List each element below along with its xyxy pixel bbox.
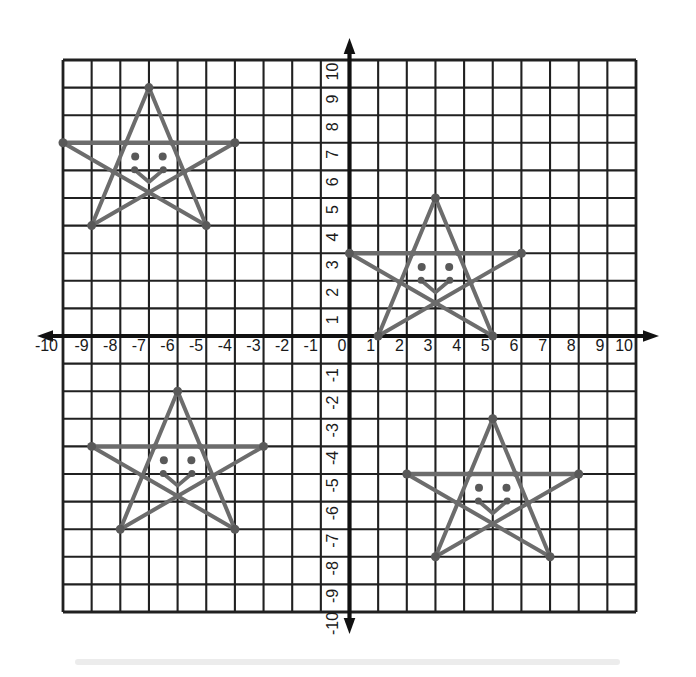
star-vertex-dot bbox=[259, 442, 268, 451]
x-tick-label: 1 bbox=[366, 337, 375, 354]
x-tick-label: 9 bbox=[595, 337, 604, 354]
star-vertex-dot bbox=[431, 194, 440, 203]
star-inner-intersection-dot bbox=[139, 473, 145, 479]
star-vertex-dot bbox=[345, 249, 354, 258]
y-tick-label: -10 bbox=[324, 612, 341, 635]
x-tick-label: -6 bbox=[160, 337, 174, 354]
mouth-corner-dot bbox=[504, 498, 511, 505]
x-tick-label: 4 bbox=[452, 337, 461, 354]
eye-dot bbox=[131, 153, 139, 161]
mouth-corner-dot bbox=[160, 470, 167, 477]
star-inner-intersection-dot bbox=[181, 169, 187, 175]
star-inner-intersection-dot bbox=[410, 250, 416, 256]
y-tick-label: -2 bbox=[324, 395, 341, 409]
y-tick-label: -6 bbox=[324, 506, 341, 520]
star-vertex-dot bbox=[230, 525, 239, 534]
star-inner-intersection-dot bbox=[467, 471, 473, 477]
star-inner-intersection-dot bbox=[490, 521, 496, 527]
star-vertex-dot bbox=[202, 221, 211, 230]
star-vertex-dot bbox=[374, 332, 383, 341]
star-vertex-dot bbox=[402, 470, 411, 479]
star-vertex-dot bbox=[488, 332, 497, 341]
worksheet-page: -10-9-8-7-6-5-4-3-2-10123456789101098765… bbox=[0, 0, 696, 677]
y-tick-label: -3 bbox=[324, 423, 341, 437]
coordinate-grid-figure: -10-9-8-7-6-5-4-3-2-10123456789101098765… bbox=[0, 0, 696, 677]
y-tick-label: 1 bbox=[324, 315, 341, 324]
star-inner-intersection-dot bbox=[123, 140, 129, 146]
star-inner-intersection-dot bbox=[525, 500, 531, 506]
y-tick-label: 10 bbox=[324, 63, 341, 81]
star-vertex-dot bbox=[517, 249, 526, 258]
y-tick-label: -9 bbox=[324, 589, 341, 603]
x-tick-label: 7 bbox=[538, 337, 547, 354]
star-inner-intersection-dot bbox=[397, 279, 403, 285]
star-inner-intersection-dot bbox=[169, 140, 175, 146]
star-inner-intersection-dot bbox=[146, 189, 152, 195]
y-tick-label: -8 bbox=[324, 561, 341, 575]
x-tick-label: 0 bbox=[338, 337, 347, 354]
mouth-corner-dot bbox=[188, 470, 195, 477]
eye-dot bbox=[160, 456, 168, 464]
star-vertex-dot bbox=[173, 387, 182, 396]
star-inner-intersection-dot bbox=[513, 471, 519, 477]
x-tick-label: 5 bbox=[481, 337, 490, 354]
star-vertex-dot bbox=[116, 525, 125, 534]
x-tick-label: -1 bbox=[304, 337, 318, 354]
eye-dot bbox=[475, 484, 483, 492]
x-tick-label: 2 bbox=[395, 337, 404, 354]
star-vertex-dot bbox=[431, 552, 440, 561]
eye-dot bbox=[187, 456, 195, 464]
x-tick-label: 10 bbox=[615, 337, 633, 354]
star-vertex-dot bbox=[87, 221, 96, 230]
star-inner-intersection-dot bbox=[432, 300, 438, 306]
mouth-corner-dot bbox=[131, 166, 138, 173]
star-inner-intersection-dot bbox=[152, 443, 158, 449]
mouth-corner-dot bbox=[446, 277, 453, 284]
star-vertex-dot bbox=[144, 83, 153, 92]
eye-dot bbox=[503, 484, 511, 492]
x-tick-label: 3 bbox=[424, 337, 433, 354]
y-tick-label: -5 bbox=[324, 478, 341, 492]
eye-dot bbox=[445, 263, 453, 271]
y-axis-top-arrowhead-icon bbox=[344, 38, 356, 54]
eye-dot bbox=[418, 263, 426, 271]
star-vertex-dot bbox=[87, 442, 96, 451]
x-tick-label: -9 bbox=[74, 337, 88, 354]
mouth-corner-dot bbox=[160, 166, 167, 173]
mouth-corner-dot bbox=[475, 498, 482, 505]
star-inner-intersection-dot bbox=[468, 279, 474, 285]
x-tick-label: 8 bbox=[567, 337, 576, 354]
star-vertex-dot bbox=[59, 138, 68, 147]
y-tick-label: -4 bbox=[324, 451, 341, 465]
x-tick-label: -7 bbox=[132, 337, 146, 354]
x-tick-label: -2 bbox=[275, 337, 289, 354]
star-inner-intersection-dot bbox=[455, 250, 461, 256]
mouth-corner-dot bbox=[418, 277, 425, 284]
y-tick-label: 9 bbox=[324, 95, 341, 104]
x-tick-label: -5 bbox=[189, 337, 203, 354]
y-tick-label: 5 bbox=[324, 205, 341, 214]
y-tick-label: 2 bbox=[324, 288, 341, 297]
x-tick-label: -3 bbox=[246, 337, 260, 354]
x-tick-label: -10 bbox=[35, 337, 58, 354]
y-tick-label: -7 bbox=[324, 533, 341, 547]
x-tick-label: 6 bbox=[509, 337, 518, 354]
eye-dot bbox=[159, 153, 167, 161]
x-axis-right-arrowhead-icon bbox=[643, 330, 659, 342]
star-vertex-dot bbox=[574, 470, 583, 479]
x-tick-label: -4 bbox=[218, 337, 232, 354]
star-inner-intersection-dot bbox=[455, 500, 461, 506]
y-axis-bottom-arrowhead-icon bbox=[344, 618, 356, 634]
y-tick-label: 4 bbox=[324, 233, 341, 242]
scan-artifact-streak bbox=[75, 659, 620, 665]
y-tick-label: 7 bbox=[324, 150, 341, 159]
star-inner-intersection-dot bbox=[175, 493, 181, 499]
star-vertex-dot bbox=[546, 552, 555, 561]
star-inner-intersection-dot bbox=[111, 169, 117, 175]
star-inner-intersection-dot bbox=[198, 443, 204, 449]
star-vertex-dot bbox=[488, 414, 497, 423]
y-tick-label: 8 bbox=[324, 122, 341, 131]
star-vertex-dot bbox=[230, 138, 239, 147]
y-tick-label: 3 bbox=[324, 260, 341, 269]
y-tick-label: 6 bbox=[324, 177, 341, 186]
